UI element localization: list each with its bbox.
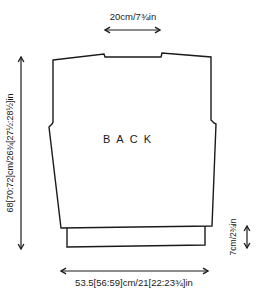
neck-width-label: 20cm/7¾in xyxy=(110,11,156,22)
length-dimension: 68[70:72]cm/26¾[27½:28½]in xyxy=(5,57,21,249)
length-label: 68[70:72]cm/26¾[27½:28½]in xyxy=(5,93,15,212)
back-schematic: 20cm/7¾in 68[70:72]cm/26¾[27½:28½]in 7cm… xyxy=(0,0,264,299)
rib-depth-label: 7cm/2¾in xyxy=(228,218,238,255)
neck-width-dimension: 20cm/7¾in xyxy=(105,11,160,30)
rib-depth-dimension: 7cm/2¾in xyxy=(228,218,247,255)
rib-band-outline xyxy=(67,226,205,247)
width-label: 53.5[56:59]cm/21[22:23¾]in xyxy=(75,277,193,288)
panel-label: BACK xyxy=(103,133,157,145)
width-dimension: 53.5[56:59]cm/21[22:23¾]in xyxy=(61,271,208,288)
